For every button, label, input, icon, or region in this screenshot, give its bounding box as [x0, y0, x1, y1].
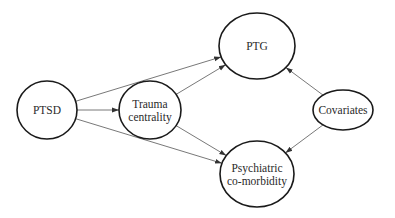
node-label-psych: co-morbidity	[227, 175, 287, 188]
arrow-cov-to-ptg	[286, 68, 323, 96]
edges-layer	[76, 57, 323, 163]
nodes-layer: PTSDTraumacentralityPTGPsychiatricco-mor…	[17, 13, 373, 207]
node-cov: Covariates	[313, 90, 373, 130]
node-label-cov: Covariates	[318, 104, 368, 116]
node-ptsd: PTSD	[17, 81, 77, 139]
node-label-psych: Psychiatric	[231, 162, 282, 175]
node-psych: Psychiatricco-morbidity	[220, 141, 294, 207]
node-label-ptg: PTG	[246, 40, 268, 52]
node-trauma: Traumacentrality	[119, 81, 181, 139]
arrow-trauma-to-ptg	[176, 65, 226, 95]
node-label-trauma: centrality	[128, 111, 172, 124]
node-label-ptsd: PTSD	[33, 104, 61, 116]
node-ptg: PTG	[219, 13, 295, 79]
arrow-cov-to-psych	[285, 125, 323, 153]
node-label-trauma: Trauma	[132, 98, 167, 110]
arrow-trauma-to-psych	[176, 126, 226, 156]
path-diagram: PTSDTraumacentralityPTGPsychiatricco-mor…	[0, 0, 395, 218]
